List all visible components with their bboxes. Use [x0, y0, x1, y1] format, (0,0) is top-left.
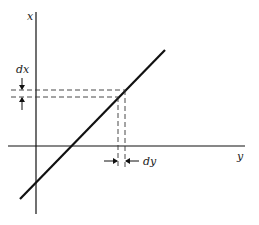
- dx-arrow-bottom: [19, 97, 25, 110]
- linear-function-line: [20, 50, 165, 199]
- vertical-axis-label: x: [27, 10, 34, 23]
- diagram-canvas: x y dx dy: [0, 0, 259, 225]
- dy-arrow-left: [104, 158, 118, 164]
- dx-arrow-top: [19, 78, 25, 90]
- dy-arrow-right: [125, 158, 139, 164]
- horizontal-axis-label: y: [236, 150, 244, 163]
- dy-label: dy: [143, 155, 157, 168]
- dx-label: dx: [16, 63, 30, 76]
